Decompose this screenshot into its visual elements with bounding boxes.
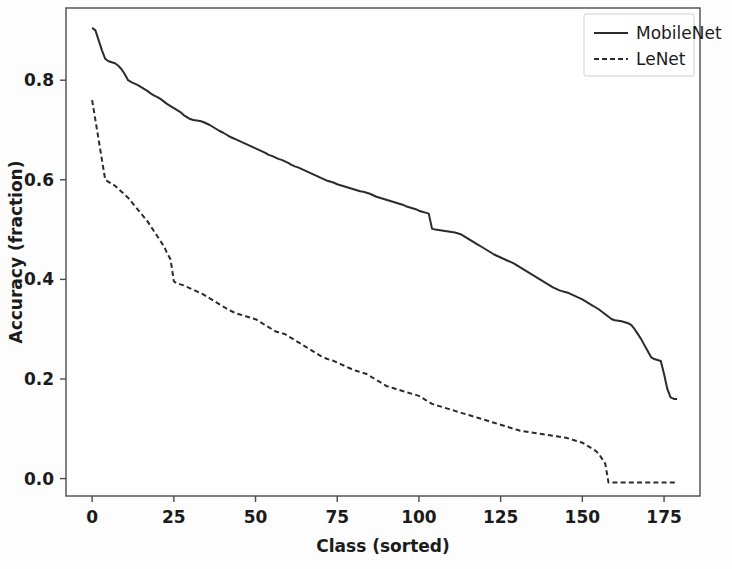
x-tick-label: 25 [162,507,186,527]
x-tick-label: 0 [86,507,98,527]
x-axis-title: Class (sorted) [316,536,449,556]
x-tick-label: 75 [325,507,349,527]
chart-figure: 0255075100125150175 0.00.20.40.60.8 Clas… [0,0,732,569]
y-axis-title: Accuracy (fraction) [6,161,26,344]
chart-legend: MobileNet LeNet [584,14,722,76]
line-chart: 0255075100125150175 0.00.20.40.60.8 Clas… [0,0,732,569]
y-tick-label: 0.6 [24,170,54,190]
x-tick-label: 50 [244,507,268,527]
x-tick-label: 150 [565,507,601,527]
y-tick-label: 0.2 [24,369,54,389]
y-tick-label: 0.0 [24,469,54,489]
x-tick-label: 175 [646,507,682,527]
y-tick-label: 0.8 [24,70,54,90]
x-tick-label: 125 [483,507,519,527]
x-tick-label: 100 [401,507,437,527]
legend-label-lenet: LeNet [636,49,686,69]
plot-background [66,8,700,496]
x-axis-ticks: 0255075100125150175 [86,496,682,527]
y-axis-ticks: 0.00.20.40.60.8 [24,70,66,488]
y-tick-label: 0.4 [24,269,54,289]
legend-label-mobilenet: MobileNet [636,23,722,43]
